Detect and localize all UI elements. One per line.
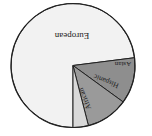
pie-chart: European Asian Hispanic African bbox=[0, 0, 152, 136]
label-european: European bbox=[54, 31, 89, 41]
label-asian: Asian bbox=[114, 60, 131, 68]
